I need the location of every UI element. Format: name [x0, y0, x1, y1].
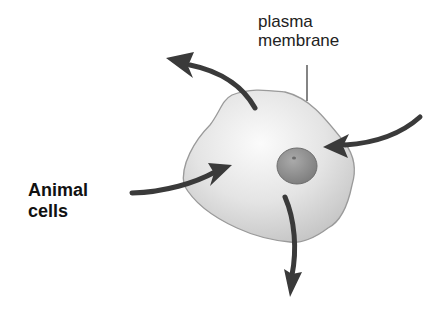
animal-cells-label: Animal cells — [28, 180, 88, 222]
animal-cells-label-line2: cells — [28, 201, 88, 222]
plasma-membrane-label: plasma membrane — [258, 12, 339, 50]
nucleus — [277, 148, 317, 184]
cell-body — [183, 90, 354, 242]
plasma-membrane-label-line1: plasma — [258, 12, 339, 31]
plasma-membrane-label-line2: membrane — [258, 31, 339, 50]
animal-cell-diagram — [0, 0, 444, 326]
animal-cells-label-line1: Animal — [28, 180, 88, 201]
